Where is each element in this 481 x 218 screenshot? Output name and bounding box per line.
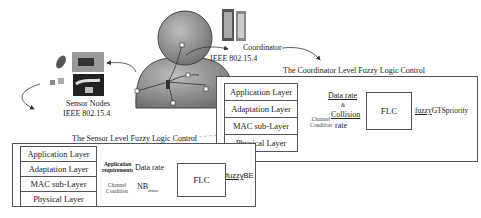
- sensor-nodes-standard: IEEE 802.15.4: [63, 110, 110, 118]
- sensor-layer-application: Application Layer: [21, 147, 96, 162]
- sensor-flc-title: The Sensor Level Fuzzy Logic Control: [72, 135, 197, 143]
- coordinator-layer-mac: MAC sub-Layer: [225, 118, 297, 135]
- coordinator-layer-application: Application Layer: [225, 84, 297, 101]
- sensor-layer-mac: MAC sub-Layer: [21, 177, 96, 192]
- sensor-channel-condition: Channel Condition: [106, 183, 128, 195]
- sensor-layer-physical: Physical Layer: [21, 192, 96, 206]
- coordinator-flc-title: The Coordinator Level Fuzzy Logic Contro…: [283, 67, 425, 75]
- coordinator-input-collision: Collision: [331, 111, 360, 119]
- coordinator-protocol-stack: Application Layer Adaptation Layer MAC s…: [224, 83, 298, 152]
- coordinator-layer-adaptation: Adaptation Layer: [225, 101, 297, 118]
- sensor-nodes-image: [50, 52, 104, 96]
- sensor-input-nb: NBtrans: [137, 183, 158, 193]
- diagram-root: Coordinator IEEE 802.15.4 Sensor Nodes I…: [0, 0, 481, 218]
- coordinator-input-rate: rate: [335, 122, 347, 130]
- coordinator-flc-output: fuzzyGTSpriority: [415, 107, 468, 115]
- coordinator-label: Coordinator: [243, 44, 282, 52]
- coordinator-input-and: &: [341, 103, 345, 109]
- coordinator-device-image: [222, 9, 246, 41]
- sensor-protocol-stack: Application Layer Adaptation Layer MAC s…: [20, 146, 97, 207]
- sensor-flc-block: FLC: [177, 163, 226, 197]
- coordinator-standard: IEEE 802.15.4: [210, 55, 257, 63]
- sensor-layer-adaptation: Adaptation Layer: [21, 162, 96, 177]
- coordinator-channel-condition: Channel Condition: [310, 117, 332, 129]
- sensor-flc-output: fuzzyBE: [226, 172, 254, 180]
- coordinator-input-data-rate: Data rate: [328, 92, 357, 100]
- coordinator-flc-block: FLC: [366, 92, 412, 130]
- sensor-input-data-rate: Data rate: [135, 164, 164, 172]
- sensor-application-requirements: Application requirements: [102, 162, 133, 174]
- sensor-nodes-label: Sensor Nodes: [66, 100, 110, 108]
